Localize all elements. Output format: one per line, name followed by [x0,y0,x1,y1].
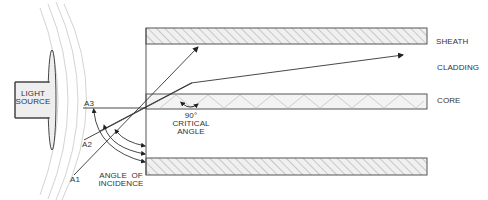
ray-a1 [74,47,198,175]
sheath-bottom-band [146,158,427,175]
light-source-label: LIGHT SOURCE [15,90,51,106]
ray-a2-label: A2 [82,141,92,149]
cladding-label: CLADDING [437,64,479,72]
critical-angle-label: 90° CRITICAL ANGLE [170,112,212,136]
critical-angle-line3: ANGLE [170,128,212,136]
sheath-top-band [146,28,427,44]
rays [74,47,403,175]
fibre-optic-diagram [0,0,488,200]
light-source-label-line2: SOURCE [15,98,51,106]
core-label: CORE [437,97,461,105]
sheath-label: SHEATH [436,38,468,46]
ray-a1-label: A1 [70,176,80,184]
angle-of-incidence-line2: INCIDENCE [96,180,146,188]
angle-arcs [94,112,145,162]
angle-of-incidence-label: ANGLE OF INCIDENCE [96,172,146,188]
ray-a3-label: A3 [84,100,94,108]
ray-a2-refracted [100,55,403,131]
